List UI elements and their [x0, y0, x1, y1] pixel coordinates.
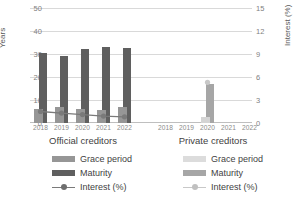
y-axis-title: Years	[0, 28, 7, 48]
x-axis-tick: 2020	[73, 124, 93, 131]
legend-swatch-grace-icon	[52, 156, 75, 162]
legend-swatch-maturity-icon	[183, 170, 206, 176]
chart-container: 50 40 30 20 10 0 15 12 9 6 3 0 Years Int…	[0, 0, 296, 198]
x-axis-tick: 2018	[31, 124, 51, 131]
x-axis-tick: 2018	[156, 124, 176, 131]
interest-marker[interactable]	[205, 80, 210, 85]
legend-item-maturity[interactable]: Maturity	[183, 166, 263, 180]
interest-marker[interactable]	[59, 110, 64, 115]
legend-label: Grace period	[80, 154, 132, 164]
interest-marker[interactable]	[38, 109, 43, 114]
category-label-private: Private creditors	[148, 135, 278, 146]
x-axis-tick: 2021	[94, 124, 114, 131]
legend-swatch-grace-icon	[183, 156, 206, 162]
x-axis-tick: 2019	[177, 124, 197, 131]
legend-label: Maturity	[80, 168, 112, 178]
legend-private: Grace period Maturity Interest (%)	[183, 152, 263, 194]
category-label-official: Official creditors	[18, 135, 148, 146]
legend-line-marker-icon	[52, 184, 75, 190]
legend-label: Maturity	[211, 168, 243, 178]
legend-line-marker-icon	[183, 184, 206, 190]
legend-item-grace-period[interactable]: Grace period	[52, 152, 132, 166]
x-axis-tick: 2022	[115, 124, 135, 131]
series-group-private	[155, 8, 260, 123]
legend-item-interest[interactable]: Interest (%)	[52, 180, 132, 194]
legend-official: Grace period Maturity Interest (%)	[52, 152, 132, 194]
legend-item-maturity[interactable]: Maturity	[52, 166, 132, 180]
legend-label: Interest (%)	[80, 182, 127, 192]
x-axis-ticks-private: 20182019202020212022	[155, 124, 260, 135]
legend-label: Interest (%)	[211, 182, 258, 192]
interest-marker[interactable]	[80, 112, 85, 117]
interest-marker[interactable]	[101, 114, 106, 119]
series-group-official	[30, 8, 135, 123]
x-axis-tick: 2020	[198, 124, 218, 131]
legend-label: Grace period	[211, 154, 263, 164]
legend-swatch-maturity-icon	[52, 170, 75, 176]
x-axis-ticks-official: 20182019202020212022	[30, 124, 135, 135]
legend-item-interest[interactable]: Interest (%)	[183, 180, 263, 194]
x-axis-tick: 2022	[240, 124, 260, 131]
x-axis-tick: 2019	[52, 124, 72, 131]
interest-marker[interactable]	[122, 114, 127, 119]
x-axis-tick: 2021	[219, 124, 239, 131]
legend-item-grace-period[interactable]: Grace period	[183, 152, 263, 166]
